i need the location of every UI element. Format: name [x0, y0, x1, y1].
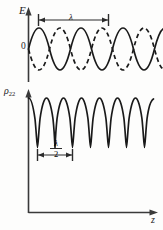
- e-axis-label: E: [19, 5, 26, 16]
- wavelength-label: λ: [69, 13, 73, 22]
- rho22-wave: [29, 98, 154, 148]
- physics-figure: E 0 ρ22 z λ λ 2: [0, 0, 163, 230]
- rho-subscript: 22: [9, 90, 16, 97]
- rho-axis-arrowhead: [25, 89, 31, 98]
- lambda-arrow-left: [39, 17, 45, 22]
- rho22-axis-label: ρ22: [4, 86, 15, 96]
- lambda-arrow-right: [102, 17, 108, 22]
- origin-label: 0: [21, 42, 26, 52]
- lower-panel-axes: [25, 89, 158, 216]
- half-lambda-arrow-left: [38, 152, 44, 157]
- half-wavelength-numerator: λ: [50, 139, 62, 148]
- upper-panel-axes: [25, 7, 31, 82]
- figure-canvas: [0, 0, 163, 230]
- z-axis-label: z: [151, 215, 155, 225]
- half-wavelength-denominator: 2: [50, 150, 62, 159]
- half-wavelength-label: λ 2: [50, 139, 62, 159]
- wavelength-span-indicator: [39, 14, 109, 26]
- e-axis-arrowhead: [25, 7, 31, 16]
- half-lambda-arrow-right: [66, 152, 72, 157]
